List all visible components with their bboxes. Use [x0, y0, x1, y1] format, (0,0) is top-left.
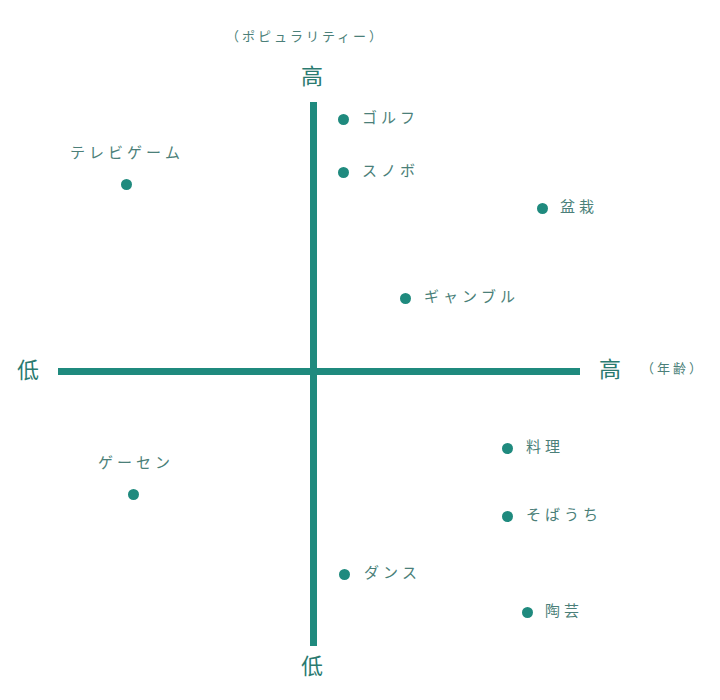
point-label-snowboard: スノボ	[362, 164, 419, 179]
point-label-golf: ゴルフ	[362, 111, 419, 126]
data-point-golf	[338, 114, 349, 125]
x-axis-title: （年齢）	[641, 362, 705, 375]
data-point-arcade	[128, 489, 139, 500]
point-label-cooking: 料理	[526, 440, 564, 455]
data-point-snowboard	[338, 167, 349, 178]
data-point-soba	[502, 511, 513, 522]
y-axis-title: （ポピュラリティー）	[226, 30, 385, 43]
data-point-gamble	[400, 293, 411, 304]
data-point-cooking	[502, 443, 513, 454]
point-label-dance: ダンス	[364, 566, 421, 581]
data-point-dance	[339, 569, 350, 580]
point-label-gamble: ギャンブル	[424, 290, 519, 305]
x-axis-high-label: 高	[599, 359, 621, 381]
data-point-videogame	[121, 179, 132, 190]
y-axis-high-label: 高	[301, 66, 323, 88]
point-label-soba: そばうち	[526, 508, 602, 523]
point-label-bonsai: 盆栽	[560, 200, 598, 215]
y-axis-low-label: 低	[301, 656, 323, 678]
point-label-arcade: ゲーセン	[98, 456, 174, 471]
data-point-bonsai	[537, 203, 548, 214]
x-axis-low-label: 低	[17, 360, 39, 382]
x-axis-line	[58, 368, 580, 375]
point-label-videogame: テレビゲーム	[70, 146, 184, 161]
data-point-pottery	[522, 607, 533, 618]
point-label-pottery: 陶芸	[545, 604, 583, 619]
